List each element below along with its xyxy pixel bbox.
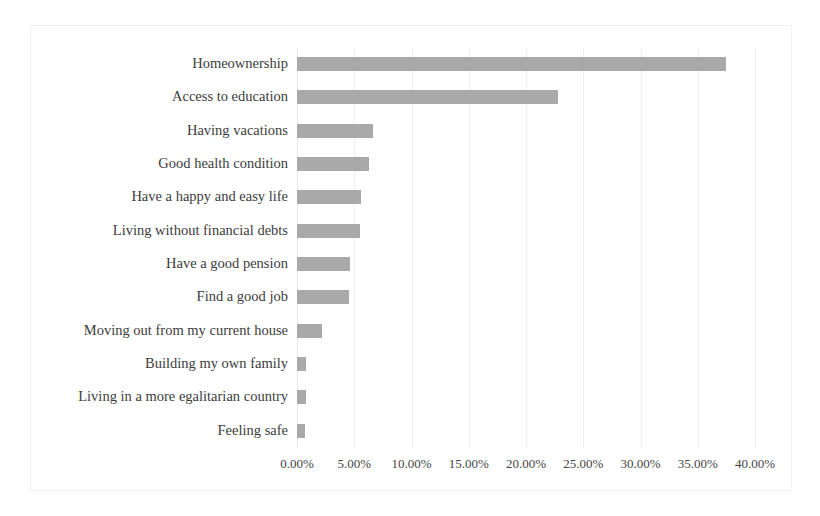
bar	[297, 424, 305, 438]
category-label: Living in a more egalitarian country	[78, 387, 288, 406]
x-tick-label: 10.00%	[391, 456, 431, 472]
bar-row: Homeownership	[297, 48, 755, 81]
x-tick-label: 35.00%	[678, 456, 718, 472]
bar	[297, 90, 558, 104]
bar-row: Have a good pension	[297, 248, 755, 281]
x-tick-label: 30.00%	[620, 456, 660, 472]
category-label: Access to education	[172, 87, 288, 106]
x-tick-label: 15.00%	[449, 456, 489, 472]
bar-row: Good health condition	[297, 148, 755, 181]
bar	[297, 157, 369, 171]
bar	[297, 290, 349, 304]
category-label: Building my own family	[145, 354, 288, 373]
bar-row: Moving out from my current house	[297, 315, 755, 348]
bar	[297, 124, 373, 138]
category-label: Moving out from my current house	[84, 321, 288, 340]
x-tick-label: 40.00%	[735, 456, 775, 472]
category-label: Have a happy and easy life	[131, 187, 288, 206]
x-tick-label: 5.00%	[337, 456, 371, 472]
category-label: Homeownership	[192, 54, 288, 73]
category-label: Good health condition	[158, 154, 288, 173]
x-tick-label: 20.00%	[506, 456, 546, 472]
bar-row: Access to education	[297, 81, 755, 114]
category-label: Find a good job	[197, 287, 288, 306]
category-label: Have a good pension	[166, 254, 288, 273]
bar	[297, 57, 726, 71]
bar	[297, 224, 360, 238]
category-label: Having vacations	[187, 121, 288, 140]
bar-row: Building my own family	[297, 348, 755, 381]
bar-row: Have a happy and easy life	[297, 181, 755, 214]
bar	[297, 357, 306, 371]
bar-row: Having vacations	[297, 115, 755, 148]
x-axis-tick-labels: 0.00%5.00%10.00%15.00%20.00%25.00%30.00%…	[297, 448, 755, 478]
bar	[297, 257, 350, 271]
bar	[297, 324, 322, 338]
category-label: Living without financial debts	[113, 221, 288, 240]
bar-row: Living in a more egalitarian country	[297, 381, 755, 414]
bar-row: Living without financial debts	[297, 215, 755, 248]
chart-container: HomeownershipAccess to educationHaving v…	[30, 25, 792, 491]
bar-row: Find a good job	[297, 281, 755, 314]
x-tick-label: 25.00%	[563, 456, 603, 472]
category-label: Feeling safe	[218, 421, 288, 440]
x-tick-label: 0.00%	[280, 456, 314, 472]
gridline-4000	[755, 48, 756, 448]
plot-area: HomeownershipAccess to educationHaving v…	[297, 48, 755, 448]
bar-row: Feeling safe	[297, 415, 755, 448]
bar	[297, 190, 361, 204]
bar	[297, 390, 306, 404]
